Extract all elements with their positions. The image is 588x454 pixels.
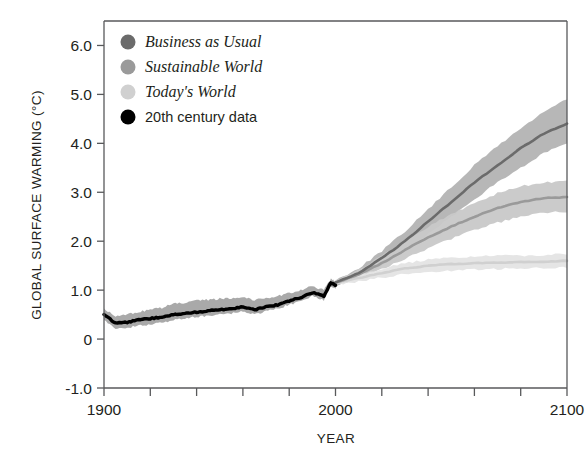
x-axis-title: YEAR bbox=[317, 431, 355, 446]
global-warming-projection-chart: -1.001.02.03.04.05.06.0 190020002100 GLO… bbox=[0, 0, 588, 454]
y-tick-label: 2.0 bbox=[70, 233, 92, 250]
x-tick-layer: 190020002100 bbox=[87, 388, 585, 418]
y-tick-label: 4.0 bbox=[70, 135, 92, 152]
y-tick-layer: -1.001.02.03.04.05.06.0 bbox=[65, 37, 104, 397]
legend-label-4: 20th century data bbox=[145, 109, 258, 125]
y-tick-label: 5.0 bbox=[70, 86, 92, 103]
legend-label-1: Business as Usual bbox=[145, 33, 262, 50]
x-tick-label: 2100 bbox=[550, 401, 585, 418]
x-tick-label: 1900 bbox=[87, 401, 122, 418]
y-tick-label: 3.0 bbox=[70, 184, 92, 201]
y-tick-label: 0 bbox=[83, 331, 92, 348]
y-tick-label: 1.0 bbox=[70, 282, 92, 299]
legend-marker-1 bbox=[121, 35, 136, 50]
legend-marker-3 bbox=[121, 85, 136, 100]
legend-label-2: Sustainable World bbox=[145, 58, 263, 75]
legend-marker-2 bbox=[121, 60, 136, 75]
y-tick-label: 6.0 bbox=[70, 37, 92, 54]
legend-label-3: Today's World bbox=[145, 83, 237, 101]
x-tick-label: 2000 bbox=[318, 401, 353, 418]
y-axis-title: GLOBAL SURFACE WARMING (°C) bbox=[29, 90, 44, 320]
chart-figure: -1.001.02.03.04.05.06.0 190020002100 GLO… bbox=[0, 0, 588, 454]
y-tick-label: -1.0 bbox=[65, 380, 92, 397]
legend-marker-4 bbox=[121, 110, 136, 125]
